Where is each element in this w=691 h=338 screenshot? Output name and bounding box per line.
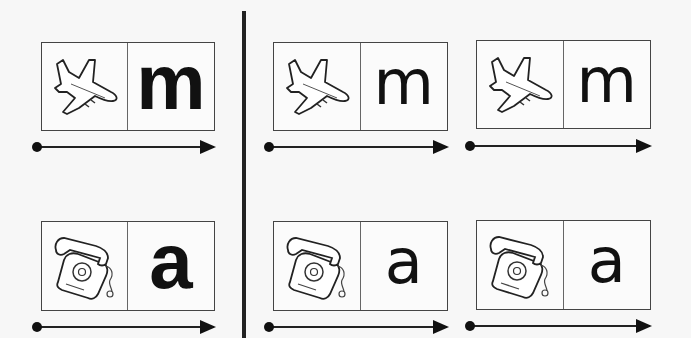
start-dot	[465, 321, 475, 331]
airplane-icon	[477, 41, 564, 128]
arrow-head-icon	[636, 139, 652, 153]
start-dot	[264, 142, 274, 152]
airplane-icon	[42, 43, 128, 130]
letter-card-a-bold: a	[41, 221, 215, 311]
telephone-icon	[42, 222, 128, 310]
start-dot	[32, 142, 42, 152]
start-dot	[32, 322, 42, 332]
arrow-head-icon	[433, 320, 449, 334]
letter-m: m	[361, 43, 448, 130]
direction-arrow	[36, 146, 214, 148]
start-dot	[465, 141, 475, 151]
letter-a: a	[361, 222, 448, 310]
letter-m: m	[128, 43, 214, 130]
letter-card-m-bold: m	[41, 42, 215, 131]
direction-arrow	[268, 326, 447, 328]
letter-card-m-thin: m	[476, 40, 651, 129]
vertical-divider-line	[242, 11, 246, 338]
letter-m: m	[564, 41, 651, 128]
arrow-head-icon	[433, 140, 449, 154]
letter-card-a-thin: a	[476, 220, 651, 310]
airplane-icon	[274, 43, 361, 130]
letter-card-m-thin: m	[273, 42, 448, 131]
telephone-icon	[477, 221, 564, 309]
start-dot	[264, 322, 274, 332]
arrow-head-icon	[200, 140, 216, 154]
direction-arrow	[469, 145, 650, 147]
arrow-head-icon	[200, 320, 216, 334]
letter-card-a-thin: a	[273, 221, 448, 311]
arrow-head-icon	[636, 319, 652, 333]
direction-arrow	[36, 326, 214, 328]
letter-a: a	[128, 222, 214, 310]
letter-a: a	[564, 221, 651, 309]
direction-arrow	[469, 325, 650, 327]
telephone-icon	[274, 222, 361, 310]
direction-arrow	[268, 146, 447, 148]
